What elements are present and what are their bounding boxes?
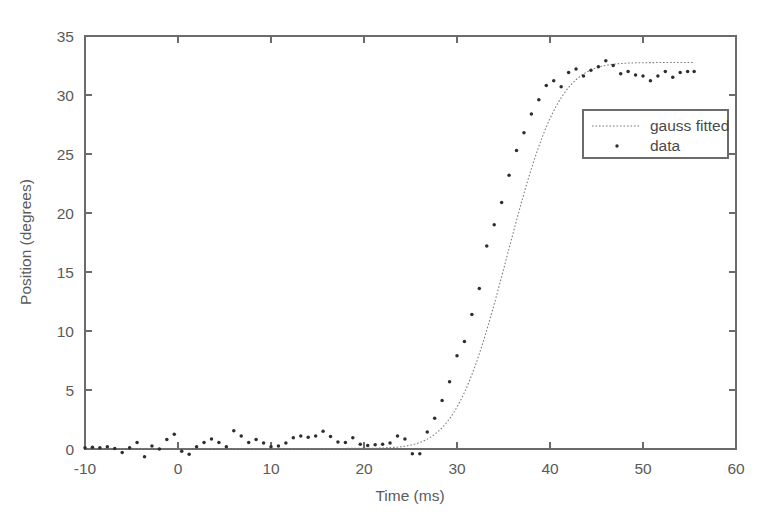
- data-point: [91, 445, 95, 449]
- x-tick-label: 60: [727, 460, 745, 477]
- data-point: [567, 71, 571, 75]
- data-point: [195, 445, 199, 449]
- data-point: [500, 201, 504, 205]
- data-point: [113, 447, 117, 451]
- data-point: [634, 73, 638, 77]
- data-point: [574, 67, 578, 71]
- data-point: [641, 74, 645, 78]
- y-tick-label: 10: [57, 323, 75, 340]
- chart-figure: 05101520253035 -100102030405060 gauss fi…: [0, 0, 780, 529]
- y-tick-label: 0: [65, 441, 74, 458]
- y-tick-label: 15: [57, 264, 74, 281]
- data-point: [225, 445, 229, 449]
- data-point: [671, 76, 675, 80]
- data-point: [686, 70, 690, 74]
- data-point: [217, 441, 221, 445]
- data-point: [150, 444, 154, 448]
- data-point: [604, 59, 608, 63]
- data-point: [455, 354, 459, 358]
- data-point: [351, 436, 355, 440]
- data-point: [545, 84, 549, 88]
- data-point: [269, 445, 273, 449]
- data-point: [180, 450, 184, 454]
- y-tick-label: 35: [57, 28, 74, 45]
- data-point: [478, 287, 482, 291]
- data-point: [589, 68, 593, 72]
- data-point: [664, 70, 668, 74]
- legend-label-gauss-fitted: gauss fitted: [650, 117, 729, 134]
- data-point: [135, 441, 139, 445]
- data-point: [344, 441, 348, 445]
- data-point: [373, 443, 377, 447]
- data-point: [619, 72, 623, 76]
- x-tick-label: 30: [448, 460, 466, 477]
- data-point: [83, 446, 87, 450]
- data-point: [440, 399, 444, 403]
- data-point: [396, 434, 400, 438]
- x-tick-label: 50: [634, 460, 652, 477]
- y-tick-label: 20: [57, 205, 75, 222]
- data-point: [165, 438, 169, 442]
- x-tick-label: 10: [262, 460, 280, 477]
- y-tick-label: 30: [57, 87, 75, 104]
- legend-label-data: data: [650, 137, 681, 154]
- data-point: [247, 441, 251, 445]
- data-point: [522, 131, 526, 135]
- x-tick-label: 0: [174, 460, 183, 477]
- data-point: [202, 441, 206, 445]
- data-point: [381, 443, 385, 447]
- data-point: [692, 70, 696, 74]
- data-point: [507, 173, 511, 177]
- data-point: [433, 417, 437, 421]
- data-point: [470, 313, 474, 317]
- data-point: [239, 434, 243, 438]
- legend-swatch-data: [615, 144, 618, 147]
- data-point: [559, 85, 563, 89]
- data-point: [314, 434, 318, 438]
- data-point: [582, 74, 586, 78]
- data-point: [678, 71, 682, 75]
- data-point: [626, 70, 630, 74]
- data-point: [321, 430, 325, 434]
- data-point: [98, 446, 102, 450]
- data-point: [292, 436, 296, 440]
- data-point: [120, 451, 124, 455]
- data-point: [106, 445, 110, 449]
- data-point: [277, 444, 281, 448]
- chart-legend: gauss fitted data: [583, 110, 729, 158]
- data-point: [143, 455, 147, 459]
- data-point: [306, 435, 310, 439]
- x-axis-ticks: -100102030405060: [74, 36, 745, 477]
- x-tick-label: -10: [74, 460, 97, 477]
- data-point: [597, 65, 601, 69]
- data-point: [210, 437, 214, 441]
- data-point: [418, 452, 422, 456]
- x-axis-title: Time (ms): [375, 487, 444, 504]
- scatter-plot-canvas: 05101520253035 -100102030405060 gauss fi…: [0, 0, 780, 529]
- data-point: [656, 74, 660, 78]
- data-point: [530, 112, 534, 116]
- data-point: [366, 444, 370, 448]
- y-tick-label: 25: [57, 146, 74, 163]
- data-point: [158, 447, 162, 451]
- data-point: [403, 437, 407, 441]
- data-point: [254, 438, 258, 442]
- data-point: [173, 433, 177, 437]
- y-axis-title: Position (degrees): [17, 179, 34, 305]
- data-point: [515, 149, 519, 153]
- data-point: [262, 441, 266, 445]
- y-tick-label: 5: [65, 382, 74, 399]
- data-point: [492, 223, 496, 227]
- data-point: [232, 429, 236, 433]
- data-point: [336, 440, 340, 444]
- data-point: [649, 79, 653, 83]
- data-point: [552, 79, 556, 83]
- data-point: [425, 430, 429, 434]
- data-point: [128, 446, 132, 450]
- data-point: [299, 434, 303, 438]
- x-tick-label: 20: [355, 460, 373, 477]
- data-point: [485, 244, 489, 248]
- data-point: [187, 453, 191, 457]
- data-point: [411, 452, 415, 456]
- data-point: [463, 340, 467, 344]
